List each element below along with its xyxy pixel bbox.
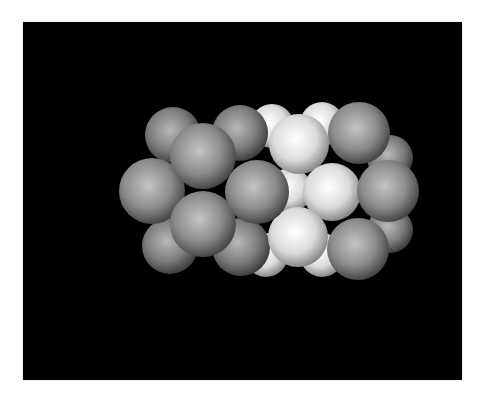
atom-sphere-gray-right bbox=[357, 160, 419, 222]
atom-sphere-front-bottom-left bbox=[170, 191, 236, 257]
atom-sphere-white-top bbox=[269, 114, 329, 174]
atom-sphere-front-top-left bbox=[170, 123, 236, 189]
atom-cluster bbox=[119, 102, 419, 280]
atom-sphere-center-gray bbox=[225, 160, 289, 224]
molecule-render bbox=[0, 0, 477, 397]
atom-sphere-gray-top-right bbox=[328, 102, 390, 164]
atom-sphere-gray-bottom-right bbox=[327, 218, 389, 280]
